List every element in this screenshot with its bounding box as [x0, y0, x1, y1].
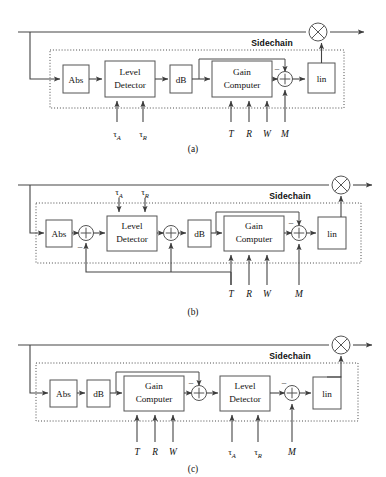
- abs-label-b: Abs: [52, 229, 67, 239]
- lin-label-c: lin: [322, 389, 332, 399]
- sidechain-tap-c: [30, 345, 48, 393]
- ratio-label-b: R: [245, 289, 252, 299]
- tau-attack-label-b: τA: [115, 187, 124, 199]
- sidechain-label-a: Sidechain: [251, 38, 293, 48]
- caption-a: (a): [188, 144, 198, 155]
- knee-width-label-c: W: [169, 447, 178, 457]
- abs-label-a: Abs: [69, 75, 84, 85]
- ratio-label-a: R: [245, 129, 252, 139]
- gain-computer-label-line1-a: Gain: [233, 67, 251, 77]
- summer-minus-sign-1-b: –: [77, 241, 83, 251]
- summer-minus-sign-2-c: –: [281, 377, 287, 387]
- caption-b: (b): [188, 307, 199, 318]
- sidechain-tap-a: [30, 32, 60, 79]
- gain-computer-label-line2-a: Computer: [224, 80, 261, 90]
- tau-attack-label-c: τA: [228, 447, 237, 459]
- panel-b: Sidechain Abs – Level Detector dB: [0, 160, 386, 320]
- summer-minus-sign-a: –: [274, 63, 280, 73]
- db-label-c: dB: [93, 389, 104, 399]
- threshold-label-c: T: [134, 447, 140, 457]
- summer-minus-sign-3-b: –: [288, 217, 294, 227]
- figure-sheet: Sidechain Abs Level Detector dB Gain Com…: [0, 0, 386, 477]
- threshold-label-b: T: [228, 289, 234, 299]
- makeup-gain-label-c: M: [287, 447, 297, 457]
- level-detector-label-line1-b: Level: [122, 221, 143, 231]
- gain-computer-label-line1-c: Gain: [145, 381, 163, 391]
- gain-computer-label-line2-b: Computer: [236, 234, 273, 244]
- level-detector-label-line2-b: Detector: [116, 234, 148, 244]
- sidechain-label-c: Sidechain: [269, 351, 311, 361]
- tau-release-label-b: τR: [141, 187, 149, 199]
- level-detector-label-line2-a: Detector: [114, 80, 146, 90]
- makeup-gain-label-b: M: [294, 289, 304, 299]
- makeup-gain-label-a: M: [280, 129, 290, 139]
- level-detector-label-line1-c: Level: [235, 381, 256, 391]
- level-detector-label-line2-c: Detector: [229, 394, 261, 404]
- gain-computer-label-line1-b: Gain: [245, 221, 263, 231]
- sidechain-tap-b: [30, 185, 44, 233]
- threshold-label-a: T: [228, 129, 234, 139]
- db-label-b: dB: [194, 229, 205, 239]
- caption-c: (c): [188, 464, 198, 475]
- knee-width-label-b: W: [263, 289, 272, 299]
- summer-minus-sign-1-c: –: [188, 377, 194, 387]
- level-detector-label-line1-a: Level: [120, 67, 141, 77]
- panel-a: Sidechain Abs Level Detector dB Gain Com…: [0, 0, 386, 155]
- lin-label-a: lin: [317, 74, 327, 84]
- tau-attack-label-a: τA: [113, 129, 122, 141]
- tau-release-label-c: τR: [254, 447, 262, 459]
- abs-label-c: Abs: [56, 389, 71, 399]
- gain-computer-label-line2-c: Computer: [136, 394, 173, 404]
- db-label-a: dB: [176, 75, 187, 85]
- wire-lin-to-multiplier-c: [327, 356, 341, 377]
- panel-c: Sidechain Abs dB Gain Computer – Level D…: [0, 320, 386, 477]
- lin-label-b: lin: [327, 229, 337, 239]
- tau-release-label-a: τR: [139, 129, 147, 141]
- ratio-label-c: R: [151, 447, 158, 457]
- sidechain-label-b: Sidechain: [269, 191, 311, 201]
- knee-width-label-a: W: [263, 129, 272, 139]
